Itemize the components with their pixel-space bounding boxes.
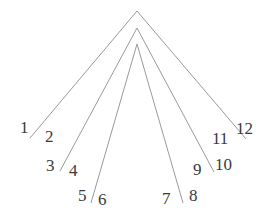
endpoint-label: 9 (193, 160, 202, 179)
endpoint-label: 11 (212, 129, 228, 148)
endpoint-label: 6 (98, 190, 107, 209)
endpoint-label: 10 (215, 155, 232, 174)
chevron-line-2 (60, 28, 214, 172)
endpoint-label: 5 (78, 186, 87, 205)
endpoint-label: 1 (20, 118, 29, 137)
endpoint-label: 4 (69, 161, 78, 180)
endpoint-label: 7 (162, 189, 171, 208)
endpoint-label: 12 (236, 119, 253, 138)
endpoint-label: 8 (189, 186, 198, 205)
nested-chevron-diagram: 123456789101112 (0, 0, 276, 224)
endpoint-label: 3 (46, 156, 55, 175)
endpoint-label: 2 (45, 127, 54, 146)
chevron-line-3 (91, 44, 183, 203)
